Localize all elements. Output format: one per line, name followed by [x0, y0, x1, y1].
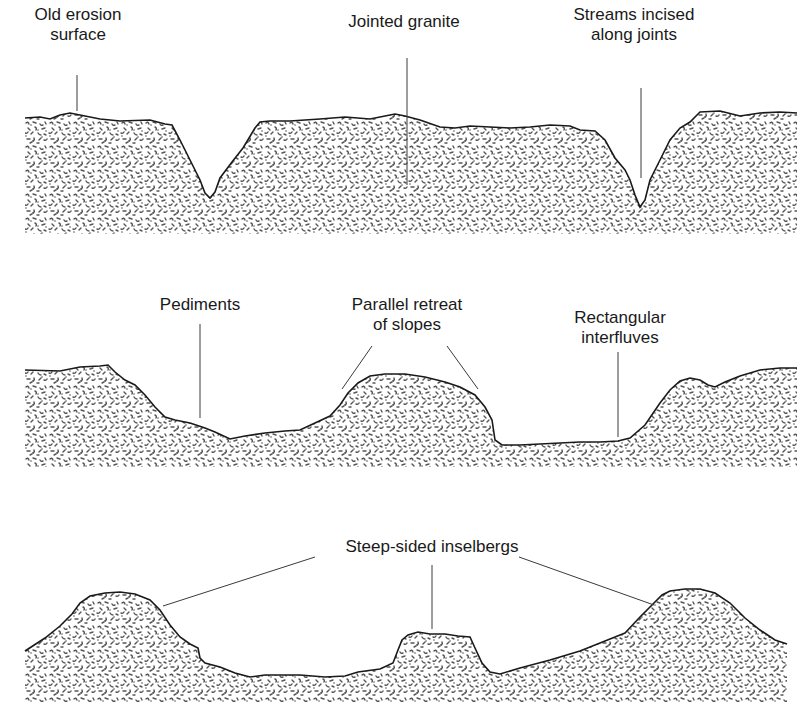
- label-line: interfluves: [574, 328, 666, 348]
- label-line: Old erosion: [35, 5, 122, 25]
- label-rectangular-interfluves: Rectangular interfluves: [574, 308, 666, 348]
- label-old-erosion-surface: Old erosion surface: [35, 5, 122, 45]
- label-parallel-retreat: Parallel retreat of slopes: [352, 295, 463, 335]
- label-line: along joints: [574, 25, 695, 45]
- label-line: Rectangular: [574, 308, 666, 328]
- stage-1-profile: [25, 58, 797, 234]
- label-pediments: Pediments: [160, 295, 240, 315]
- leader-parallel-retreat-right: [447, 346, 478, 389]
- label-line: Jointed granite: [348, 12, 460, 32]
- stage-3-granite-block: [25, 589, 787, 702]
- stage-1-granite-block: [25, 111, 797, 234]
- label-line: Parallel retreat: [352, 295, 463, 315]
- stage-3-profile: [25, 557, 787, 702]
- label-jointed-granite: Jointed granite: [348, 12, 460, 32]
- landform-evolution-diagram: [0, 0, 811, 715]
- label-streams-incised: Streams incised along joints: [574, 5, 695, 45]
- stage-2-profile: [25, 324, 797, 467]
- leader-inselberg-right: [519, 557, 654, 605]
- label-line: Steep-sided inselbergs: [346, 537, 519, 557]
- label-line: surface: [35, 25, 122, 45]
- label-line: Streams incised: [574, 5, 695, 25]
- label-steep-sided-inselbergs: Steep-sided inselbergs: [346, 537, 519, 557]
- label-line: Pediments: [160, 295, 240, 315]
- leader-inselberg-left: [163, 557, 315, 606]
- label-line: of slopes: [352, 315, 463, 335]
